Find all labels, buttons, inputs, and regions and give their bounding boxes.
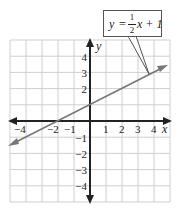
- x-tick: −4: [14, 123, 26, 135]
- y-tick: −4: [75, 180, 87, 192]
- x-tick: 4: [151, 123, 157, 135]
- y-tick: 4: [82, 51, 88, 63]
- x-tick: 3: [135, 123, 141, 135]
- y-tick: −1: [75, 132, 87, 144]
- y-tick: −3: [75, 164, 87, 176]
- equation-callout: y = 1 2 x + 1: [103, 10, 162, 37]
- x-tick: 2: [119, 123, 125, 135]
- y-axis-label: y: [95, 39, 102, 53]
- line-arrow-right-icon: [157, 65, 168, 72]
- x-tick: −1: [64, 123, 76, 135]
- eq-equals: =: [119, 17, 126, 32]
- eq-numerator: 1: [128, 12, 136, 22]
- eq-rest: x + 1: [137, 17, 162, 32]
- eq-y: y: [109, 17, 114, 32]
- line-series: [8, 65, 168, 146]
- arrow-down-icon: [86, 195, 94, 204]
- y-tick: 2: [82, 83, 88, 95]
- eq-denominator: 2: [128, 25, 136, 35]
- arrow-up-icon: [86, 38, 94, 47]
- x-axis-label: x: [161, 122, 168, 136]
- x-tick: 1: [103, 123, 109, 135]
- y-tick: 3: [82, 67, 88, 79]
- y-tick: −2: [75, 148, 87, 160]
